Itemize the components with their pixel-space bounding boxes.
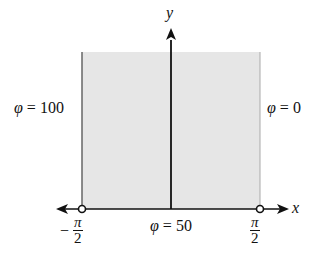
right-boundary-label: φ = 0 <box>267 99 301 117</box>
left-tick-sign: − <box>60 222 69 240</box>
left-boundary-label: φ = 100 <box>14 99 64 117</box>
left-open-point-icon <box>79 206 86 213</box>
right-open-point-icon <box>257 206 264 213</box>
x-axis-label: x <box>292 199 299 217</box>
y-axis-label: y <box>166 4 173 22</box>
left-tick-label: π 2 <box>73 215 83 246</box>
y-axis-arrow-icon <box>166 28 176 40</box>
right-tick-label: π 2 <box>250 215 260 246</box>
bottom-boundary-label: φ = 50 <box>150 217 192 235</box>
